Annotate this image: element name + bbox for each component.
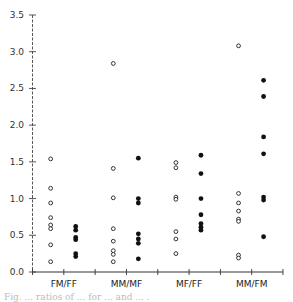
open-circle-point (237, 192, 241, 196)
open-circle-point (111, 62, 115, 66)
filled-circle-point (73, 254, 78, 259)
filled-circle-point (73, 228, 78, 233)
open-circle-point (237, 44, 241, 48)
x-category-label: FM/FF (51, 279, 77, 289)
filled-circle-point (261, 94, 266, 99)
open-circle-point (49, 157, 53, 161)
open-circle-point (237, 219, 241, 223)
filled-circle-point (136, 237, 141, 242)
open-circle-point (237, 201, 241, 205)
filled-circle-point (136, 196, 141, 201)
open-circle-point (49, 201, 53, 205)
open-circle-point (111, 227, 115, 231)
y-tick-label: 1.0 (10, 194, 25, 204)
open-circle-point (237, 209, 241, 213)
filled-circle-point (136, 256, 141, 261)
filled-circle-point (261, 134, 266, 139)
filled-circle-point (199, 196, 204, 201)
open-circle-point (49, 243, 53, 247)
filled-circle-point (199, 153, 204, 158)
filled-circle-point (261, 234, 266, 239)
open-circle-point (49, 186, 53, 190)
filled-circle-point (73, 237, 78, 242)
y-tick-label: 0.0 (10, 267, 25, 277)
open-circle-point (111, 196, 115, 200)
data-points (49, 44, 266, 264)
filled-circle-point (199, 212, 204, 217)
open-circle-point (174, 166, 178, 170)
x-category-label: MF/FF (176, 279, 202, 289)
open-circle-point (49, 260, 53, 264)
open-circle-point (174, 230, 178, 234)
open-circle-point (111, 239, 115, 243)
open-circle-point (111, 260, 115, 264)
filled-circle-point (261, 151, 266, 156)
open-circle-point (174, 252, 178, 256)
filled-circle-point (261, 198, 266, 203)
y-axis: 0.00.51.01.52.02.53.03.5 (10, 10, 36, 277)
open-circle-point (49, 227, 53, 231)
y-tick-label: 2.0 (10, 120, 25, 130)
figure-caption-partial: Fig. ... ratios of ... for ... and ... . (4, 292, 150, 302)
open-circle-point (174, 161, 178, 165)
open-circle-point (174, 237, 178, 241)
x-axis: FM/FFMM/MFMF/FFMM/FM (33, 269, 284, 289)
y-tick-label: 0.5 (10, 230, 24, 240)
x-category-label: MM/MF (111, 279, 143, 289)
y-tick-label: 3.0 (10, 47, 25, 57)
open-circle-point (111, 252, 115, 256)
open-circle-point (174, 197, 178, 201)
y-tick-label: 2.5 (10, 83, 24, 93)
filled-circle-point (199, 228, 204, 233)
filled-circle-point (136, 231, 141, 236)
filled-circle-point (136, 156, 141, 161)
open-circle-point (49, 216, 53, 220)
filled-circle-point (261, 78, 266, 83)
y-tick-label: 3.5 (10, 10, 24, 20)
filled-circle-point (136, 201, 141, 206)
open-circle-point (237, 256, 241, 260)
x-category-label: MM/FM (236, 279, 268, 289)
filled-circle-point (136, 241, 141, 246)
open-circle-point (111, 167, 115, 171)
filled-circle-point (199, 171, 204, 176)
y-tick-label: 1.5 (10, 157, 24, 167)
